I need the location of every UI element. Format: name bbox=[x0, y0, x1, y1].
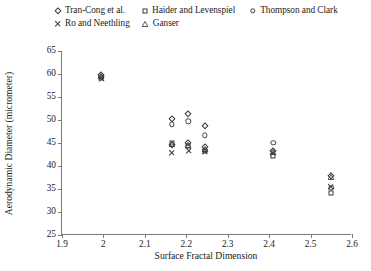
cross-marker-icon bbox=[52, 18, 63, 29]
y-axis-tick-label: 25 bbox=[47, 230, 56, 239]
x-axis-tick-label: 2 bbox=[101, 240, 106, 249]
x-axis-tick bbox=[103, 234, 104, 238]
y-axis-label: Aerodynamic Diameter (micrometer) bbox=[2, 51, 15, 235]
x-axis-tick bbox=[62, 234, 63, 238]
square-marker-icon bbox=[139, 5, 150, 16]
x-axis-tick bbox=[269, 234, 270, 238]
chart-legend: Tran-Cong et al.Haider and LevenspielTho… bbox=[52, 4, 368, 30]
legend-item-label: Ganser bbox=[153, 17, 179, 30]
y-axis-tick bbox=[58, 143, 62, 144]
x-axis-tick-label: 2.4 bbox=[263, 240, 275, 249]
x-axis-tick-label: 2.3 bbox=[222, 240, 234, 249]
x-axis-tick-label: 2.5 bbox=[305, 240, 317, 249]
legend-item-thompson-and-clark: Thompson and Clark bbox=[247, 4, 338, 17]
x-axis-tick-label: 2.2 bbox=[180, 240, 192, 249]
legend-item-ganser: Ganser bbox=[140, 17, 179, 30]
x-axis-tick bbox=[352, 234, 353, 238]
x-axis-tick-label: 2.1 bbox=[139, 240, 151, 249]
x-axis-tick-label: 1.9 bbox=[56, 240, 68, 249]
diamond-marker-icon bbox=[52, 5, 63, 16]
y-axis-tick-label: 45 bbox=[47, 138, 56, 147]
y-axis-tick bbox=[58, 166, 62, 167]
legend-row: Tran-Cong et al.Haider and LevenspielTho… bbox=[52, 4, 368, 17]
x-axis-tick bbox=[186, 234, 187, 238]
legend-item-label: Ro and Neethling bbox=[65, 17, 130, 30]
y-axis-tick-label: 50 bbox=[47, 115, 56, 124]
y-axis-tick bbox=[58, 74, 62, 75]
plot-area: 2530354045505560651.922.12.22.32.42.52.6 bbox=[61, 51, 351, 235]
x-axis-tick bbox=[311, 234, 312, 238]
y-axis-tick-label: 60 bbox=[47, 69, 56, 78]
x-axis-label-text: Surface Fractal Dimension bbox=[155, 250, 258, 261]
legend-item-ro-and-neethling: Ro and Neethling bbox=[52, 17, 130, 30]
legend-item-label: Tran-Cong et al. bbox=[65, 4, 125, 17]
y-axis-tick bbox=[58, 97, 62, 98]
x-axis-tick bbox=[145, 234, 146, 238]
y-axis-label-text: Aerodynamic Diameter (micrometer) bbox=[3, 71, 14, 214]
y-axis-tick bbox=[58, 212, 62, 213]
y-axis-tick-label: 35 bbox=[47, 184, 56, 193]
legend-item-tran-cong-et-al: Tran-Cong et al. bbox=[52, 4, 125, 17]
legend-row: Ro and NeethlingGanser bbox=[52, 17, 368, 30]
x-axis-tick bbox=[228, 234, 229, 238]
y-axis-tick bbox=[58, 120, 62, 121]
x-axis-tick-label: 2.6 bbox=[346, 240, 358, 249]
legend-item-label: Haider and Levenspiel bbox=[152, 4, 235, 17]
y-axis-tick-label: 65 bbox=[47, 46, 56, 55]
triangle-marker-icon bbox=[140, 18, 151, 29]
legend-item-label: Thompson and Clark bbox=[260, 4, 338, 17]
legend-item-haider-and-levenspiel: Haider and Levenspiel bbox=[139, 4, 235, 17]
y-axis-tick-label: 40 bbox=[47, 161, 56, 170]
y-axis-tick bbox=[58, 51, 62, 52]
circle-marker-icon bbox=[247, 5, 258, 16]
x-axis-label: Surface Fractal Dimension bbox=[61, 250, 351, 261]
y-axis-tick bbox=[58, 189, 62, 190]
y-axis-tick-label: 30 bbox=[47, 207, 56, 216]
y-axis-tick-label: 55 bbox=[47, 92, 56, 101]
scatter-chart-figure: Tran-Cong et al.Haider and LevenspielTho… bbox=[0, 0, 371, 271]
